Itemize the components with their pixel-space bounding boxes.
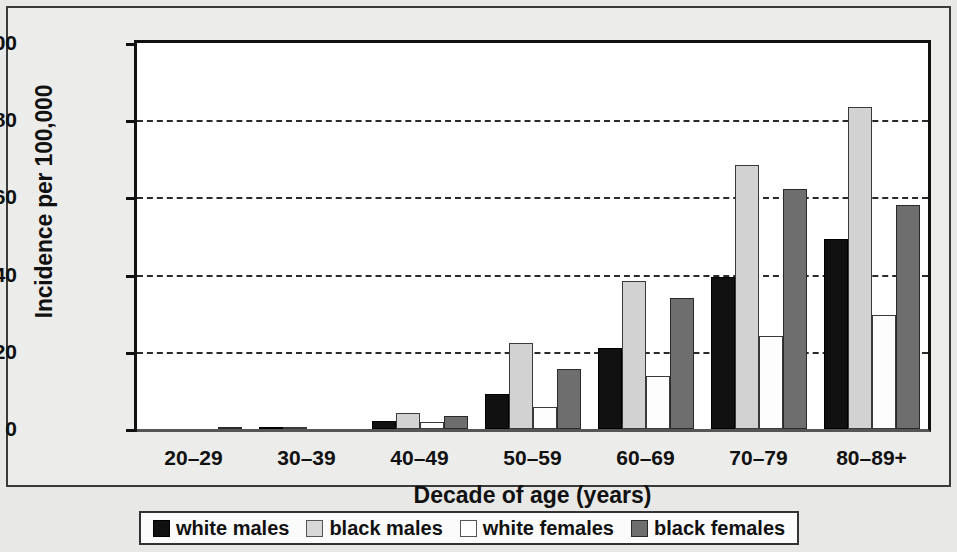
bar-black-females-60-69 (670, 298, 694, 429)
bar-black-males-40-49 (396, 413, 420, 429)
bar-white-females-60-69 (646, 376, 670, 429)
bar-black-females-70-79 (783, 189, 807, 429)
x-tick-label-80-89+: 80–89+ (836, 446, 907, 470)
x-axis-title: Decade of age (years) (134, 482, 931, 509)
y-tick-label-80: 80 (0, 108, 17, 132)
bar-black-females-80-89+ (896, 205, 920, 429)
bar-group-80-89+ (824, 43, 920, 429)
legend-swatch-icon-black-females (631, 520, 648, 537)
x-tick-label-70-79: 70–79 (729, 446, 787, 470)
chart-legend: white malesblack maleswhite femalesblack… (139, 511, 799, 545)
bar-group-60-69 (598, 43, 694, 429)
bar-white-females-70-79 (759, 336, 783, 429)
legend-label: black females (654, 517, 785, 540)
bar-black-females-40-49 (444, 416, 468, 429)
y-tick-label-20: 20 (0, 340, 17, 364)
bar-black-females-20-29 (218, 427, 242, 429)
legend-item-white-males: white males (153, 517, 289, 540)
legend-label: white females (483, 517, 614, 540)
x-tick-label-30-39: 30–39 (277, 446, 335, 470)
bar-white-males-80-89+ (824, 239, 848, 429)
bar-black-males-70-79 (735, 165, 759, 429)
y-tick-label-100: 100 (0, 31, 17, 55)
bar-group-20-29 (146, 43, 242, 429)
y-tick-label-40: 40 (0, 263, 17, 287)
y-axis-title: Incidence per 100,000 (31, 12, 58, 392)
y-tick-mark-0 (126, 429, 137, 432)
x-tick-label-40-49: 40–49 (390, 446, 448, 470)
legend-swatch-icon-black-males (306, 520, 323, 537)
x-tick-label-50-59: 50–59 (503, 446, 561, 470)
bar-white-males-40-49 (372, 421, 396, 429)
bar-group-30-39 (259, 43, 355, 429)
legend-label: black males (329, 517, 442, 540)
legend-swatch-icon-white-females (460, 520, 477, 537)
bar-group-50-59 (485, 43, 581, 429)
bar-white-males-30-39 (259, 427, 283, 429)
bar-white-males-60-69 (598, 348, 622, 429)
plot-inner (137, 43, 928, 429)
bar-white-females-80-89+ (872, 315, 896, 429)
legend-label: white males (176, 517, 289, 540)
figure-page: Incidence per 100,000 20–2930–3940–4950–… (0, 0, 957, 552)
bar-black-males-60-69 (622, 281, 646, 429)
x-tick-label-60-69: 60–69 (616, 446, 674, 470)
bar-black-males-80-89+ (848, 107, 872, 429)
y-tick-label-0: 0 (0, 417, 17, 441)
bar-black-males-30-39 (283, 427, 307, 429)
y-tick-mark-60 (126, 197, 137, 200)
y-tick-mark-40 (126, 275, 137, 278)
figure-frame: Incidence per 100,000 20–2930–3940–4950–… (6, 6, 951, 487)
y-tick-mark-100 (126, 43, 137, 46)
bar-white-females-50-59 (533, 407, 557, 429)
y-tick-mark-20 (126, 352, 137, 355)
bar-black-females-50-59 (557, 369, 581, 429)
y-tick-label-60: 60 (0, 185, 17, 209)
y-tick-mark-80 (126, 120, 137, 123)
legend-swatch-icon-white-males (153, 520, 170, 537)
bar-white-males-70-79 (711, 277, 735, 429)
bar-white-males-50-59 (485, 394, 509, 429)
bar-group-40-49 (372, 43, 468, 429)
plot-area (134, 40, 931, 432)
legend-item-black-females: black females (631, 517, 785, 540)
legend-item-white-females: white females (460, 517, 614, 540)
bar-group-70-79 (711, 43, 807, 429)
legend-item-black-males: black males (306, 517, 442, 540)
bar-white-females-40-49 (420, 422, 444, 429)
bar-black-males-50-59 (509, 343, 533, 429)
x-tick-label-20-29: 20–29 (164, 446, 222, 470)
